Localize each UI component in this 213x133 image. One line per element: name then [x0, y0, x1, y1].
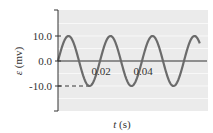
x-tick-label: 0.02	[91, 65, 110, 77]
y-tick-label: 10.0	[33, 30, 53, 42]
y-axis-title: ε (mv)	[12, 46, 25, 75]
y-tick-labels: 10.00.0-10.0	[29, 30, 52, 92]
x-axis-title: t (s)	[113, 118, 131, 131]
emf-chart: 10.00.0-10.0 0.020.04 ε (mv) t (s)	[0, 0, 213, 133]
x-tick-label: 0.04	[133, 65, 153, 77]
y-tick-label: -10.0	[29, 80, 52, 92]
y-tick-label: 0.0	[38, 55, 52, 67]
